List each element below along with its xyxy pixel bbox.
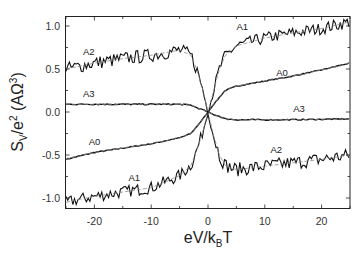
curve-label-a0: A0 xyxy=(89,136,101,147)
curve-label-a1: A1 xyxy=(128,172,140,183)
y-tick-label: -0.5 xyxy=(42,149,60,161)
plot-curves xyxy=(66,19,350,204)
y-tick-label: -1.0 xyxy=(42,192,60,204)
fit-a2 xyxy=(66,50,350,170)
y-axis-title: SV/e2 (AΩ3) xyxy=(8,72,29,152)
x-tick-label: 0 xyxy=(205,215,211,227)
curve-label-a2: A2 xyxy=(270,144,282,155)
x-tick-label: -20 xyxy=(87,215,102,227)
y-tick-label: 1.0 xyxy=(45,20,60,32)
x-tick-label: 10 xyxy=(259,215,271,227)
curve-a2 xyxy=(66,46,349,177)
y-tick-label: 0.0 xyxy=(45,106,60,118)
curve-label-a1: A1 xyxy=(236,21,248,32)
x-tick-label: 20 xyxy=(316,215,328,227)
curve-label-a3: A3 xyxy=(293,103,305,114)
chart-figure: -20-10010201.00.50.0-0.5-1.0 A2A3A0A1A1A… xyxy=(0,0,363,264)
y-tick-label: 0.5 xyxy=(45,63,60,75)
curve-label-a3: A3 xyxy=(83,88,95,99)
x-axis-title: eV/kBT xyxy=(184,229,233,249)
curve-label-a2: A2 xyxy=(83,46,95,57)
curve-label-a0: A0 xyxy=(276,67,288,78)
x-tick-label: -10 xyxy=(144,215,159,227)
